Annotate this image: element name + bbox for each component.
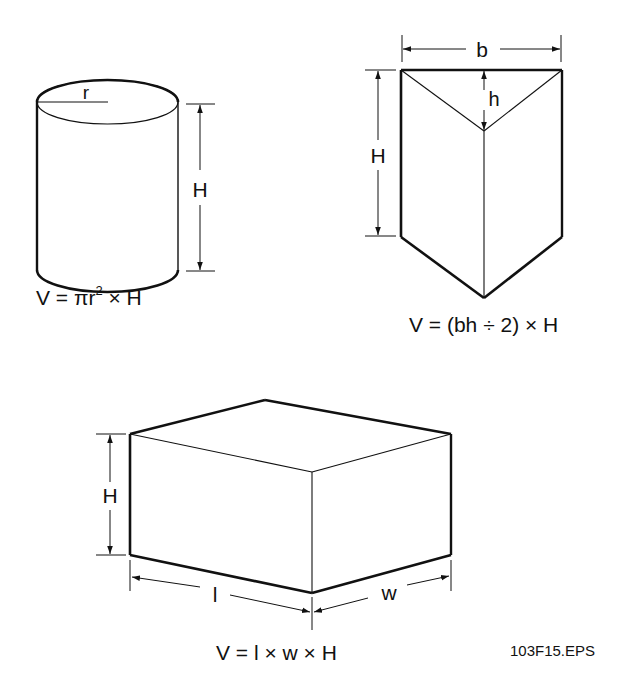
width-arrow-right <box>407 576 449 585</box>
length-arrow-right <box>230 595 310 612</box>
box-volume-formula: V = l × w × H <box>216 641 337 665</box>
cylinder-formula-prefix: V = πr <box>36 286 95 309</box>
width-arrow-left <box>314 598 368 612</box>
triangular-prism-figure: b h H <box>365 35 562 298</box>
length-arrow-left <box>132 577 200 587</box>
cylinder-formula-suffix: × H <box>103 286 142 309</box>
length-label: l <box>213 583 218 606</box>
box-height-label: H <box>102 484 117 507</box>
cylinder-formula-exponent: 2 <box>95 283 102 298</box>
rectangular-box-figure: H l w <box>96 400 451 630</box>
width-label: w <box>380 581 397 604</box>
figure-id-label: 103F15.EPS <box>510 642 595 659</box>
cylinder-height-label: H <box>192 178 207 201</box>
radius-label: r <box>83 82 90 103</box>
volume-formulas-diagram: r H b h H <box>0 0 617 674</box>
cylinder-figure: r H <box>37 80 215 292</box>
prism-height-label: H <box>370 144 385 167</box>
base-label: b <box>476 38 488 61</box>
triangle-height-label: h <box>488 88 499 110</box>
prism-volume-formula: V = (bh ÷ 2) × H <box>409 313 558 337</box>
cylinder-volume-formula: V = πr2 × H <box>36 285 142 310</box>
